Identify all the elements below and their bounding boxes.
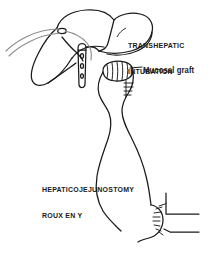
distal-jejunum-upper-wall (166, 203, 199, 214)
catheter-lower-wall (9, 33, 60, 56)
medical-illustration: TRANSHEPATIC INTUBATION Mucosal graft HE… (0, 0, 219, 258)
stent-side-hole-3 (81, 74, 84, 78)
hepatic-duct (48, 63, 76, 83)
stent-side-hole-2 (81, 64, 84, 69)
label-hepaticojejunostomy-line2: ROUX EN Y (42, 212, 134, 221)
transhepatic-leader-line (117, 28, 126, 37)
label-transhepatic-line1: TRANSHEPATIC (128, 42, 184, 51)
label-hepaticojejunostomy-line1: HEPATICOJEJUNOSTOMY (42, 186, 134, 195)
stent-side-hole-1 (81, 54, 84, 59)
jejunojejunostomy-curve (138, 205, 163, 242)
liver-left-lobe-outline (31, 28, 72, 85)
label-hepaticojejunostomy: HEPATICOJEJUNOSTOMY ROUX EN Y (42, 169, 134, 237)
label-transhepatic-intubation: TRANSHEPATIC INTUBATION (128, 25, 184, 93)
distal-jejunum-lower-wall (164, 229, 199, 232)
label-mucosal-graft: Mucosal graft (143, 66, 194, 75)
